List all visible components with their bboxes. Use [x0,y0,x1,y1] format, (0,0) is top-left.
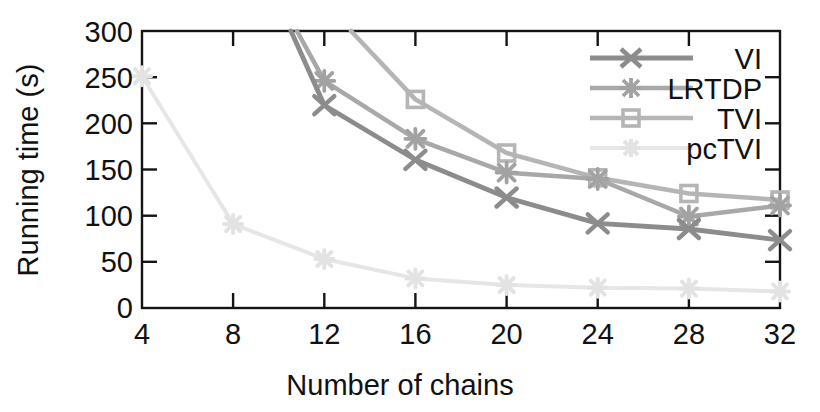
asterisk-marker-icon [621,78,641,98]
legend-item-tvi[interactable]: TVI [590,103,762,135]
x-axis-title: Number of chains [286,369,513,401]
y-axis-ticks [142,77,157,262]
legend-item-vi[interactable]: VI [590,43,762,75]
legend-label-lrtdp: LRTDP [667,73,762,105]
legend-item-lrtdp[interactable]: LRTDP [590,73,762,105]
legend-label-tvi: TVI [717,103,762,135]
y-axis-tick-labels: 300 250 200 150 100 50 0 [85,16,133,324]
legend-label-pctvi: pcTVI [686,133,762,165]
chart-svg: 300 250 200 150 100 50 0 4 8 12 16 20 24… [0,0,820,412]
y-tick-label-100: 100 [85,200,133,232]
chart-legend: VI LRTDP TVI [590,43,762,165]
x-tick-label-32: 32 [764,318,796,350]
series-LRTDP-line [297,31,780,217]
y-axis-title: Running time (s) [12,64,44,277]
legend-item-pctvi[interactable]: pcTVI [590,133,762,165]
faded-asterisk-marker-icon [622,139,640,157]
x-axis-ticks [233,293,689,308]
y-tick-label-150: 150 [85,154,133,186]
y-tick-label-250: 250 [85,62,133,94]
x-tick-label-20: 20 [490,318,522,350]
x-axis-tick-labels: 4 8 12 16 20 24 28 32 [134,318,796,350]
x-tick-label-12: 12 [308,318,340,350]
y-tick-label-0: 0 [117,292,133,324]
legend-label-vi: VI [735,43,762,75]
x-tick-label-28: 28 [673,318,705,350]
y-tick-label-300: 300 [85,16,133,48]
y-tick-label-50: 50 [101,246,133,278]
x-tick-label-24: 24 [582,318,614,350]
y-tick-label-200: 200 [85,108,133,140]
x-tick-label-4: 4 [134,318,150,350]
running-time-line-chart: 300 250 200 150 100 50 0 4 8 12 16 20 24… [0,0,820,412]
x-tick-label-16: 16 [399,318,431,350]
x-tick-label-8: 8 [225,318,241,350]
